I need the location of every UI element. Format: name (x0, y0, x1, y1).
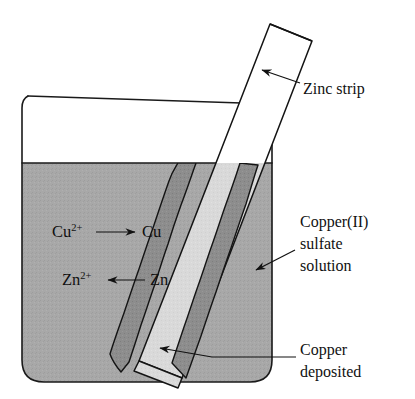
zn-species-right: Zn (150, 270, 168, 289)
copper-deposited-label-line-1: Copper (300, 341, 348, 359)
cu-species-right: Cu (142, 222, 161, 241)
cu-charge-left: 2+ (71, 222, 82, 233)
copper-sulfate-label-line-3: solution (300, 257, 352, 274)
copper-deposited-label-line-2: deposited (300, 363, 361, 381)
diagram-svg: Cu2+ Cu Zn2+ Zn Zinc strip Copper(II) su… (0, 0, 415, 399)
copper-sulfate-solution-label: Copper(II) sulfate solution (300, 213, 368, 274)
copper-sulfate-label-line-2: sulfate (300, 235, 343, 252)
copper-deposited-label: Copper deposited (300, 341, 361, 381)
zinc-strip-label: Zinc strip (303, 80, 365, 98)
copper-sulfate-label-line-1: Copper(II) (300, 213, 368, 231)
cu-species-left: Cu (52, 222, 71, 241)
zn-charge-left: 2+ (80, 270, 91, 281)
zn-species-left: Zn (62, 270, 80, 289)
beaker-rim (28, 96, 272, 104)
zinc-strip-label-line-1: Zinc strip (303, 80, 365, 98)
chemistry-diagram: Cu2+ Cu Zn2+ Zn Zinc strip Copper(II) su… (0, 0, 415, 399)
